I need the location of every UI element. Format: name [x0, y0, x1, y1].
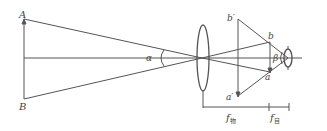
label-f-eyepiece: f目	[269, 112, 280, 125]
label-alpha: α	[146, 53, 152, 63]
ray-objective-to-b	[202, 42, 270, 58]
telescope-magnification-diagram: A B α b′ a′ b a β f物 f目	[0, 0, 327, 131]
label-b: b	[268, 31, 274, 41]
ray-a-prime-to-eye	[238, 58, 288, 96]
label-f-objective: f物	[225, 112, 236, 125]
ray-b-prime-to-eye	[238, 19, 288, 58]
ray-b-to-objective	[24, 58, 202, 99]
label-b-upper: B	[18, 101, 26, 112]
ray-a-to-objective	[24, 19, 202, 58]
label-a: a	[265, 72, 270, 82]
ray-objective-to-a	[202, 58, 270, 72]
label-a-prime: a′	[226, 92, 233, 102]
label-a-upper: A	[18, 9, 26, 20]
label-b-prime: b′	[227, 13, 235, 23]
label-beta: β	[272, 53, 278, 63]
